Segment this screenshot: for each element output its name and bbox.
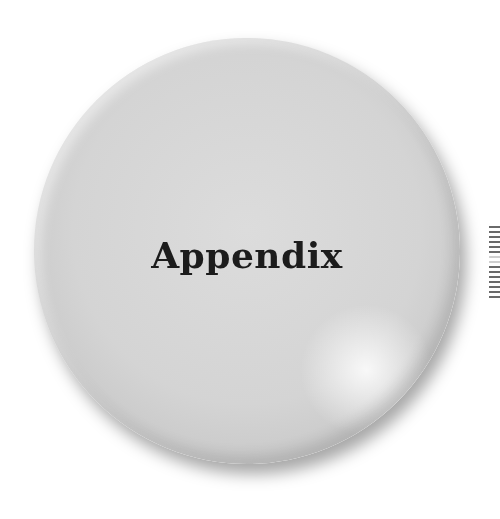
tick-mark [489, 246, 500, 248]
appendix-disc: Appendix [34, 38, 460, 464]
tick-mark [489, 256, 500, 258]
tick-mark [489, 271, 500, 273]
edge-tick-marks [489, 226, 500, 302]
tick-mark [489, 261, 500, 263]
tick-mark [489, 281, 500, 283]
tick-mark [489, 266, 500, 268]
tick-mark [489, 276, 500, 278]
page-title: Appendix [34, 234, 460, 276]
tick-mark [489, 251, 500, 253]
tick-mark [489, 236, 500, 238]
tick-mark [489, 226, 500, 228]
tick-mark [489, 231, 500, 233]
tick-mark [489, 296, 500, 298]
tick-mark [489, 291, 500, 293]
tick-mark [489, 286, 500, 288]
tick-mark [489, 241, 500, 243]
